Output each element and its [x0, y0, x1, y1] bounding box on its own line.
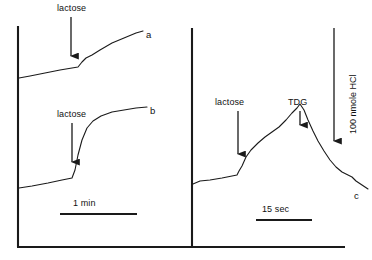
trace-c	[193, 104, 368, 189]
trace-label-c: c	[354, 191, 359, 201]
trace-b	[19, 107, 147, 188]
time-scale-label-1-min: 1 min	[73, 198, 96, 208]
amplitude-scale-label: 100 nmole HCl	[348, 74, 358, 134]
figure-root: lactose a lactose b 1 min lactose TDG c …	[0, 0, 372, 260]
annotation-label-lactose-trace-c: lactose	[215, 97, 244, 107]
trace-canvas	[0, 0, 372, 260]
time-scale-label-15-sec: 15 sec	[262, 204, 289, 214]
trace-label-b: b	[150, 106, 155, 116]
annotation-label-lactose-trace-a: lactose	[57, 3, 86, 13]
trace-a	[19, 31, 143, 78]
annotation-label-tdg-trace-c: TDG	[288, 97, 307, 107]
annotation-label-lactose-trace-b: lactose	[57, 109, 86, 119]
trace-label-a: a	[146, 30, 151, 40]
